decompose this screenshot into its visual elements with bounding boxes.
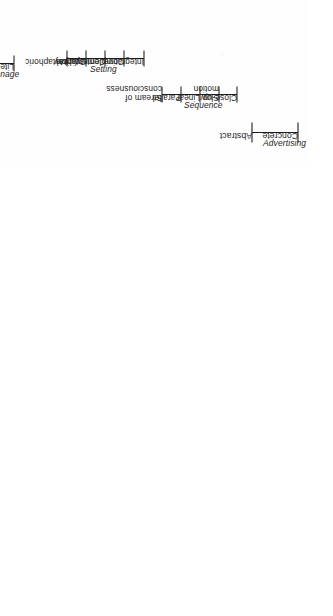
axis-setting-tick-label-4: Integrative — [104, 57, 144, 66]
axis-advertising-right-end: Concrete — [262, 130, 298, 139]
axis-advertising-left-end: Abstract — [220, 130, 252, 139]
diagram-page: AbstractConcreteNo settingNo userNo prod… — [0, 0, 308, 167]
axis-personnage-tick-label-2: Literal — [0, 62, 14, 71]
axis-sequence-tick-label-4: Close-up — [203, 93, 237, 102]
